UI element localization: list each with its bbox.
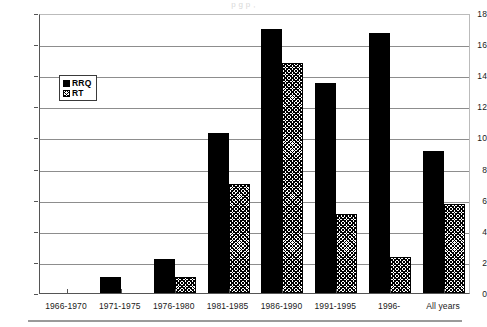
x-tick-label: 1986-1990: [255, 302, 309, 311]
bar-group: [148, 15, 202, 293]
legend-item-rrq: RRQ: [63, 78, 92, 88]
bar-rrq: [154, 259, 175, 293]
bar-rrq: [315, 83, 336, 293]
y-tick-label: 18: [461, 10, 487, 18]
legend-item-rt: RT: [63, 88, 92, 98]
x-tick-label: 1996-: [362, 302, 416, 311]
bar-rrq: [369, 33, 390, 293]
y-tick-label: 4: [461, 228, 487, 236]
bar-rt: [444, 204, 465, 293]
y-tick-mark: [34, 232, 38, 233]
plot-area: [39, 14, 470, 294]
bar-group: [94, 15, 148, 293]
bar-group: [40, 15, 94, 293]
x-tick-mark: [282, 289, 283, 294]
x-tick-mark: [67, 289, 68, 294]
chart-legend: RRQ RT: [59, 75, 97, 101]
x-tick-label: 1976-1980: [147, 302, 201, 311]
bar-rt: [390, 257, 411, 293]
y-tick-mark: [34, 170, 38, 171]
legend-swatch-rrq-icon: [63, 80, 70, 87]
y-tick-mark: [34, 294, 38, 295]
x-tick-label: 1981-1985: [201, 302, 255, 311]
bar-rt: [336, 214, 357, 293]
bar-group: [417, 15, 471, 293]
bar-rrq: [423, 151, 444, 293]
y-tick-mark: [34, 263, 38, 264]
x-tick-mark: [229, 289, 230, 294]
y-tick-mark: [34, 107, 38, 108]
x-tick-mark: [121, 289, 122, 294]
x-tick-label: 1991-1995: [308, 302, 362, 311]
bar-group: [309, 15, 363, 293]
y-tick-label: 10: [461, 134, 487, 142]
y-tick-label: 2: [461, 259, 487, 267]
bar-rt: [282, 63, 303, 293]
page-horizontal-rule: [28, 320, 462, 322]
y-tick-mark: [34, 76, 38, 77]
bar-chart-figure: p g p , 024681012141618 1966-19701971-19…: [0, 0, 487, 327]
bar-group: [256, 15, 310, 293]
y-tick-label: 6: [461, 197, 487, 205]
y-tick-mark: [34, 201, 38, 202]
y-tick-mark: [34, 14, 38, 15]
x-tick-mark: [336, 289, 337, 294]
bar-rt: [175, 277, 196, 293]
y-tick-label: 8: [461, 166, 487, 174]
x-tick-label: All years: [416, 302, 470, 311]
legend-label-rt: RT: [72, 89, 84, 98]
y-tick-mark: [34, 45, 38, 46]
legend-label-rrq: RRQ: [72, 79, 92, 88]
y-tick-label: 16: [461, 41, 487, 49]
x-tick-label: 1971-1975: [93, 302, 147, 311]
x-tick-label: 1966-1970: [39, 302, 93, 311]
page-bleed-text: p g p ,: [0, 0, 487, 9]
bar-rrq: [100, 277, 121, 293]
y-tick-label: 14: [461, 72, 487, 80]
y-tick-mark: [34, 138, 38, 139]
bar-rrq: [261, 29, 282, 293]
bar-group: [363, 15, 417, 293]
x-tick-mark: [390, 289, 391, 294]
x-tick-mark: [175, 289, 176, 294]
y-tick-label: 12: [461, 103, 487, 111]
bar-rt: [229, 184, 250, 293]
bar-group: [202, 15, 256, 293]
y-axis: [0, 0, 34, 327]
y-tick-label: 0: [461, 290, 487, 298]
x-tick-mark: [444, 289, 445, 294]
legend-swatch-rt-icon: [63, 90, 70, 97]
bar-rrq: [208, 133, 229, 293]
